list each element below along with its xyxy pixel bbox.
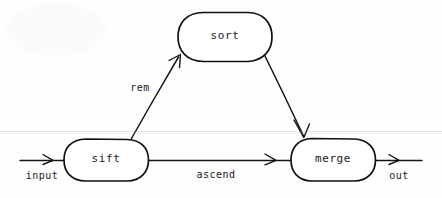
edge-rem-line — [130, 57, 179, 141]
edge-sort-merge-line — [265, 55, 304, 136]
node-sift-label: sift — [92, 152, 121, 165]
edge-label-out: out — [389, 170, 409, 181]
edge-label-rem: rem — [130, 82, 150, 93]
edge-out-arrowhead — [389, 155, 399, 165]
node-sort-label: sort — [211, 29, 240, 42]
diagram-canvas: input rem ascend out sift — [0, 0, 442, 198]
dataflow-diagram: input rem ascend out sift — [0, 0, 442, 198]
node-merge-label: merge — [315, 152, 351, 165]
edge-label-ascend: ascend — [196, 169, 235, 180]
edge-ascend: ascend — [148, 154, 292, 180]
edge-out: out — [375, 155, 422, 182]
node-sift[interactable]: sift — [64, 139, 149, 181]
edge-ascend-arrowhead — [265, 154, 276, 165]
edge-rem: rem — [130, 55, 181, 142]
edge-input-arrowhead — [43, 155, 53, 165]
edge-input: input — [20, 155, 64, 182]
node-sort[interactable]: sort — [178, 13, 272, 62]
node-merge[interactable]: merge — [291, 139, 376, 182]
edge-label-input: input — [26, 170, 59, 181]
edge-sort-merge — [265, 55, 310, 138]
